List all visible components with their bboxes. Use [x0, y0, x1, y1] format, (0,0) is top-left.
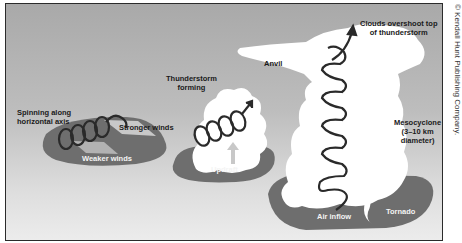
stronger-winds-label: Stronger winds	[119, 123, 174, 132]
thunderstorm-forming-label: Thunderstorm forming	[166, 74, 217, 92]
forming-cloud	[192, 88, 267, 173]
forming-label-line1: Thunderstorm	[166, 74, 217, 83]
copyright-credit: © Kendall Hunt Publishing Company.	[452, 4, 462, 240]
anvil-label: Anvil	[264, 59, 282, 68]
meso-label-line3: diameter)	[394, 136, 441, 145]
spinning-label-line1: Spinning along	[17, 108, 71, 117]
supercell-cloud	[237, 23, 424, 208]
forming-label-line2: forming	[166, 83, 217, 92]
spinning-label: Spinning along horizontal axis	[17, 108, 71, 126]
mesocyclone-label: Mesocyclone (3–10 km diameter)	[394, 118, 441, 145]
overshoot-label: Clouds overshoot top of thunderstorm	[360, 19, 438, 37]
overshoot-label-line1: Clouds overshoot top	[360, 19, 438, 28]
updraft-label: Updraft	[211, 165, 238, 174]
overshoot-label-line2: of thunderstorm	[360, 28, 438, 37]
spinning-label-line2: horizontal axis	[17, 117, 71, 126]
weaker-winds-label: Weaker winds	[82, 154, 132, 163]
meso-label-line1: Mesocyclone	[394, 118, 441, 127]
meso-label-line2: (3–10 km	[394, 127, 441, 136]
air-inflow-label: Air inflow	[317, 212, 351, 221]
diagram-frame: Spinning along horizontal axis Stronger …	[5, 3, 443, 241]
tornado-label: Tornado	[386, 207, 415, 216]
diagram-artwork	[6, 4, 442, 240]
